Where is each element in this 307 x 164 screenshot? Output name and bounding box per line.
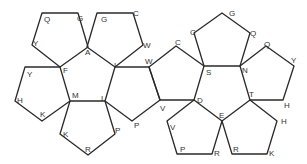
vertex-label: K bbox=[63, 130, 69, 139]
vertex-label: P bbox=[180, 145, 185, 154]
vertex-label: D bbox=[197, 96, 203, 105]
vertex-label: K bbox=[40, 110, 46, 119]
pentagon-6 bbox=[149, 46, 204, 100]
vertex-label: P bbox=[115, 126, 120, 135]
pentagon-10 bbox=[222, 100, 277, 154]
vertex-label: V bbox=[170, 123, 176, 132]
vertex-label: I bbox=[114, 61, 116, 70]
vertex-label: K bbox=[269, 149, 275, 158]
vertex-label: W bbox=[145, 57, 153, 66]
vertex-label: T bbox=[249, 90, 254, 99]
vertex-label: G bbox=[229, 9, 235, 18]
vertex-label: H bbox=[281, 117, 287, 126]
vertex-label: P bbox=[134, 121, 139, 130]
vertex-label: R bbox=[233, 145, 239, 154]
vertex-label: Y bbox=[291, 56, 297, 65]
vertex-label: Y bbox=[33, 39, 39, 48]
vertex-label: C bbox=[133, 9, 139, 18]
vertex-label: H bbox=[17, 96, 23, 105]
vertex-label: S bbox=[206, 68, 211, 77]
vertex-label: Q bbox=[44, 15, 50, 24]
vertex-label: G bbox=[101, 15, 107, 24]
vertex-label: Y bbox=[27, 70, 33, 79]
vertex-label: V bbox=[160, 104, 166, 113]
vertex-labels: QGYAFGCWIWYHKMIKRPPCVDSCGQNQYHTEVPRHRK bbox=[17, 9, 297, 158]
vertex-label: M bbox=[72, 91, 79, 100]
pentagon-2 bbox=[87, 13, 143, 67]
vertex-label: E bbox=[219, 111, 224, 120]
vertex-label: G bbox=[77, 14, 83, 23]
vertex-label: N bbox=[242, 66, 248, 75]
vertex-label: W bbox=[143, 41, 151, 50]
pentagon-7 bbox=[194, 13, 250, 66]
vertex-label: Q bbox=[264, 40, 270, 49]
dodecahedron-net-diagram: QGYAFGCWIWYHKMIKRPPCVDSCGQNQYHTEVPRHRK bbox=[0, 0, 307, 164]
vertex-label: H bbox=[284, 101, 290, 110]
vertex-label: F bbox=[63, 66, 68, 75]
vertex-label: Q bbox=[250, 29, 256, 38]
vertex-label: C bbox=[175, 38, 181, 47]
vertex-label: A bbox=[85, 48, 91, 57]
vertex-label: I bbox=[101, 94, 103, 103]
vertex-label: R bbox=[214, 149, 220, 158]
vertex-label: C bbox=[190, 28, 196, 37]
vertex-label: R bbox=[85, 145, 91, 154]
